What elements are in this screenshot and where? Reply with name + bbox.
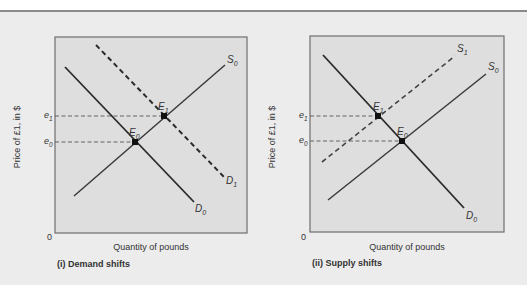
panel-demand-shifts: S0 D0 D1 E0 E1 e1 e0 0 Price of £1, in $… <box>12 37 247 269</box>
tick-e1: e1 <box>299 110 308 122</box>
panel-caption: (i) Demand shifts <box>57 259 130 269</box>
tick-e0: e0 <box>299 135 308 147</box>
origin-label: 0 <box>47 232 52 242</box>
tick-e0: e0 <box>44 136 53 148</box>
panel-caption: (ii) Supply shifts <box>312 258 382 268</box>
origin-label: 0 <box>301 232 306 242</box>
x-axis-label: Quantity of pounds <box>113 242 189 252</box>
x-axis-label: Quantity of pounds <box>369 242 445 252</box>
y-axis-label: Price of £1, in $ <box>12 106 22 169</box>
plot-area <box>55 37 247 233</box>
y-axis-label: Price of £1, in $ <box>267 106 277 169</box>
panel-supply-shifts: S0 S1 D0 E0 E1 e1 e0 0 Price of £1, in $… <box>267 36 504 268</box>
tick-e1: e1 <box>44 110 53 122</box>
figure-canvas: S0 D0 D1 E0 E1 e1 e0 0 Price of £1, in $… <box>0 0 527 285</box>
